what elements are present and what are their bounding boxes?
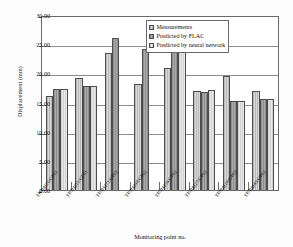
x-axis-label-slot: TP/BM10/GP01 — [41, 192, 71, 234]
x-axis-label-slot: TP/BM28/GP02 — [220, 192, 250, 234]
y-axis-tick-label: 5.00 — [16, 158, 50, 164]
bar — [112, 38, 119, 190]
legend-item-flac: Predicted by FLAC — [149, 32, 225, 41]
y-axis-tick-label: 25.00 — [16, 42, 50, 48]
legend-swatch-icon — [149, 34, 154, 39]
y-axis-tick-label: 20.00 — [16, 71, 50, 77]
bar — [105, 53, 112, 190]
y-axis-tick-label: 30.00 — [16, 13, 50, 19]
x-axis-label-slot: TP/BM98/GP02 — [130, 192, 160, 234]
legend-label: Predicted by FLAC — [157, 32, 205, 41]
x-axis-labels: TP/BM10/GP01TP/BM11/GP01TP/BM71/GP02TP/B… — [41, 192, 279, 234]
y-axis-tick-label: 10.00 — [16, 129, 50, 135]
x-axis-title: Monitoring point no. — [41, 233, 279, 240]
bar — [223, 76, 230, 190]
x-axis-label-slot: TP/BM56/GP02 — [160, 192, 190, 234]
bar — [164, 68, 171, 190]
x-axis-label-slot: TP/BM49/GP02 — [249, 192, 279, 234]
bar-group — [101, 17, 131, 190]
x-axis-label-slot: TP/BM27/GP02 — [190, 192, 220, 234]
legend-swatch-icon — [149, 43, 154, 48]
bar — [90, 86, 97, 190]
legend: Measurements Predicted by FLAC Predicted… — [146, 20, 229, 53]
legend-label: Measurements — [157, 23, 193, 32]
legend-label: Predicted by neural network — [157, 41, 226, 50]
bar-group — [72, 17, 102, 190]
bar-group — [249, 17, 279, 190]
x-axis-label-slot: TP/BM71/GP02 — [101, 192, 131, 234]
bar — [60, 89, 67, 190]
bar — [267, 99, 274, 190]
y-axis-tick-label: 15.00 — [16, 100, 50, 106]
legend-item-neural-network: Predicted by neural network — [149, 41, 225, 50]
bar — [178, 51, 185, 190]
bar — [208, 90, 215, 190]
legend-swatch-icon — [149, 25, 154, 30]
bar-chart: Displacement (mm) 0.005.0010.0015.0020.0… — [0, 0, 293, 247]
bar — [237, 101, 244, 190]
x-axis-label-slot: TP/BM11/GP01 — [71, 192, 101, 234]
legend-item-measurements: Measurements — [149, 23, 225, 32]
